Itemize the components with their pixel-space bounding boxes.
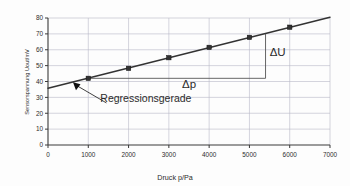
x-tick-label: 6000: [283, 151, 298, 158]
data-point-marker: [86, 76, 90, 80]
regression-annotation-label: Regressionsgerade: [100, 92, 191, 104]
x-tick-label: 7000: [323, 151, 338, 158]
x-tick-label: 4000: [202, 151, 217, 158]
delta-u-annotation-label: ΔU: [270, 46, 286, 58]
chart-figure: 01000200030004000500060007000 0102030405…: [0, 0, 350, 186]
data-point-marker: [207, 45, 211, 49]
data-point-marker: [126, 66, 130, 70]
x-tick-label: 1000: [81, 151, 96, 158]
x-tick-label: 3000: [162, 151, 177, 158]
x-axis-label: Druck p/Pa: [157, 173, 193, 182]
x-tick-label: 0: [46, 151, 50, 158]
y-tick-label: 70: [36, 30, 44, 37]
chart-canvas: 01000200030004000500060007000 0102030405…: [0, 0, 350, 186]
y-tick-label: 50: [36, 62, 44, 69]
data-point-marker: [167, 55, 171, 59]
y-tick-label: 0: [39, 141, 43, 148]
delta-p-annotation-label: Δp: [182, 78, 196, 90]
y-tick-label: 30: [36, 94, 44, 101]
y-tick-label: 10: [36, 125, 44, 132]
y-tick-label: 60: [36, 46, 44, 53]
data-point-marker: [288, 25, 292, 29]
y-tick-label: 80: [36, 14, 44, 21]
data-point-marker: [247, 35, 251, 39]
x-tick-label: 5000: [242, 151, 257, 158]
y-tick-label: 20: [36, 110, 44, 117]
x-tick-label: 2000: [121, 151, 136, 158]
y-axis-label: Sensorspannung Uout/mV: [24, 49, 30, 115]
y-tick-label: 40: [36, 78, 44, 85]
